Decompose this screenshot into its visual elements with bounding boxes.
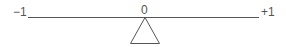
fulcrum-triangle-icon — [131, 18, 160, 44]
label-minus-one: −1 — [13, 6, 27, 18]
label-plus-one: +1 — [261, 6, 275, 18]
label-zero: 0 — [141, 4, 148, 16]
balance-number-line-diagram: −1 0 +1 — [0, 0, 286, 47]
